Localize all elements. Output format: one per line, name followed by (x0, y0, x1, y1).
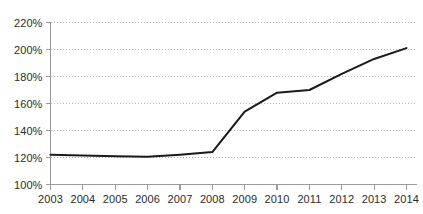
data-line (51, 48, 407, 157)
x-tick-label-2009: 2009 (232, 193, 257, 205)
y-tickmarks-group (46, 23, 51, 185)
x-tick-label-2003: 2003 (38, 193, 63, 205)
x-tick-label-2006: 2006 (135, 193, 160, 205)
y-tick-label-120%: 120% (4, 152, 43, 164)
y-tick-label-100%: 100% (4, 179, 43, 191)
y-tick-label-140%: 140% (4, 125, 43, 137)
y-tick-label-160%: 160% (4, 98, 43, 110)
y-tick-label-200%: 200% (4, 44, 43, 56)
line-chart: 100%120%140%160%180%200%220% 20032004200… (0, 0, 423, 214)
data-series-group (51, 48, 407, 157)
x-tick-label-2014: 2014 (394, 193, 419, 205)
x-tick-label-2013: 2013 (362, 193, 387, 205)
y-tick-label-220%: 220% (4, 17, 43, 29)
x-tick-label-2012: 2012 (329, 193, 354, 205)
x-tick-label-2004: 2004 (70, 193, 95, 205)
x-tick-label-2008: 2008 (200, 193, 225, 205)
x-tick-label-2007: 2007 (168, 193, 193, 205)
x-tickmarks-group (51, 185, 407, 190)
y-tick-label-180%: 180% (4, 71, 43, 83)
chart-plot-area (0, 0, 423, 214)
x-tick-label-2010: 2010 (265, 193, 290, 205)
gridlines-group (51, 23, 418, 158)
x-tick-label-2011: 2011 (297, 193, 321, 205)
x-tick-label-2005: 2005 (103, 193, 128, 205)
